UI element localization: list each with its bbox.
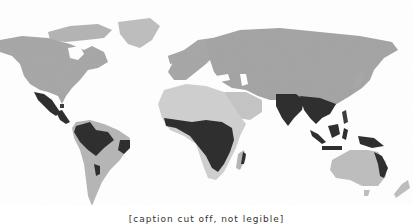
world-map <box>0 0 413 205</box>
texture-overlay <box>0 0 413 205</box>
map-caption: [caption cut off, not legible] <box>0 214 413 224</box>
